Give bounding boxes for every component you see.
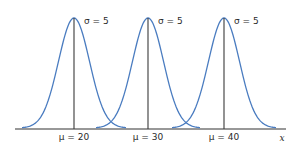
curve-mu-40 (172, 18, 276, 129)
curve-mu-30 (96, 18, 200, 129)
mu-label-40: μ = 40 (209, 132, 240, 142)
x-axis-label: x (279, 133, 284, 143)
mu-label-30: μ = 30 (133, 132, 164, 142)
sigma-label-2: σ = 5 (158, 16, 183, 26)
normal-distributions-diagram: σ = 5 σ = 5 σ = 5 μ = 20 μ = 30 μ = 40 x (0, 0, 298, 150)
curve-mu-20 (22, 18, 126, 129)
sigma-label-1: σ = 5 (84, 16, 109, 26)
sigma-label-3: σ = 5 (234, 16, 259, 26)
mu-label-20: μ = 20 (59, 132, 90, 142)
